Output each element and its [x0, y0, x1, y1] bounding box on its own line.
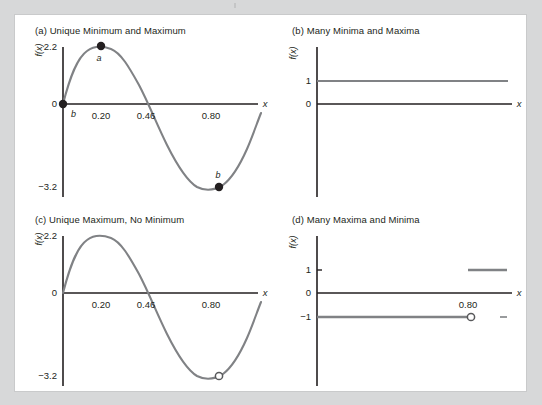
panel-a-label-maximum: a [96, 53, 101, 63]
panel-a-marker-maximum [97, 42, 105, 50]
panel-d-xtick-0: 0.80 [459, 299, 478, 310]
panel-a-label-origin: b [71, 109, 76, 119]
panel-c-xtick-1: 0.46 [137, 299, 156, 310]
panel-d: (d) Many Maxima and Minima 1 0 −1 0.80 [272, 204, 528, 393]
panel-b-ytick-0: 1 [306, 75, 311, 86]
panel-a-x-axis-label: x [262, 98, 269, 109]
panel-d-marker-open-endpoint [467, 313, 474, 320]
panel-a-marker-origin [59, 100, 67, 108]
panel-a-label-minimum: b [215, 170, 220, 180]
figure-root: (a) Unique Minimum and Maximum 2.2 0 −3.… [0, 0, 542, 405]
panel-a-xtick-2: 0.80 [202, 110, 221, 121]
panel-b-ytick-1: 0 [306, 98, 311, 109]
panel-c-y-axis-label: f(x) [34, 233, 44, 246]
panel-c-plot: 2.2 0 −3.2 0.20 0.46 0.80 f(x) x [15, 204, 271, 393]
figure-card: (a) Unique Minimum and Maximum 2.2 0 −3.… [14, 14, 527, 392]
panel-a-ytick-0: 2.2 [44, 41, 57, 52]
panel-a-ytick-1: 0 [52, 98, 57, 109]
panel-b: (b) Many Minima and Maxima 1 0 f(x) x [272, 15, 528, 204]
panel-d-ytick-1: 0 [306, 287, 311, 298]
panel-b-y-axis-label: f(x) [288, 47, 298, 60]
panel-c-x-axis-label: x [262, 287, 269, 298]
panel-c-ytick-0: 2.2 [44, 230, 57, 241]
panel-c-xtick-0: 0.20 [92, 299, 111, 310]
page-speck [234, 3, 236, 8]
panel-a-plot: 2.2 0 −3.2 0.20 0.46 0.80 b a b f(x) x [15, 15, 271, 204]
panel-d-plot: 1 0 −1 0.80 f(x) x [272, 204, 528, 393]
panel-a-xtick-1: 0.46 [137, 110, 156, 121]
panel-a-y-axis-label: f(x) [34, 44, 44, 57]
panel-c-ytick-2: −3.2 [38, 370, 57, 381]
panel-c-ytick-1: 0 [52, 287, 57, 298]
panel-c-marker-open-minimum [215, 372, 222, 379]
panel-b-x-axis-label: x [516, 98, 523, 109]
panel-c: (c) Unique Maximum, No Minimum 2.2 0 −3.… [15, 204, 271, 393]
panel-c-xtick-2: 0.80 [202, 299, 221, 310]
panel-d-ytick-0: 1 [306, 264, 311, 275]
panel-d-y-axis-label: f(x) [288, 236, 298, 249]
panel-d-x-axis-label: x [516, 287, 523, 298]
panel-a: (a) Unique Minimum and Maximum 2.2 0 −3.… [15, 15, 271, 204]
panel-a-ytick-2: −3.2 [38, 181, 57, 192]
panel-a-marker-minimum [215, 183, 223, 191]
panel-a-xtick-0: 0.20 [92, 110, 111, 121]
panel-b-plot: 1 0 f(x) x [272, 15, 528, 204]
panel-d-ytick-2: −1 [300, 311, 311, 322]
